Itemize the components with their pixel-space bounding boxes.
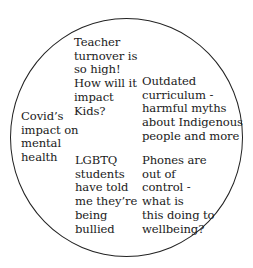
note-lgbtq-bullying: LGBTQ students have told me they’re bein… bbox=[75, 154, 137, 236]
note-phones-wellbeing: Phones are out of control - what is this… bbox=[142, 154, 215, 236]
note-outdated-curriculum: Outdated curriculum - harmful myths abou… bbox=[142, 75, 243, 144]
note-teacher-turnover: Teacher turnover is so high! How will it… bbox=[74, 36, 137, 118]
note-covid-mental-health: Covid’s impact on mental health bbox=[21, 110, 78, 165]
